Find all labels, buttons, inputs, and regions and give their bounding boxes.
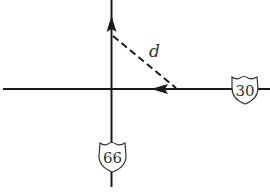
distance-line (113, 36, 176, 88)
highway-diagram: d 30 66 (0, 0, 270, 196)
highway-30-shield: 30 (232, 77, 258, 105)
highway-66-number: 66 (103, 149, 122, 167)
highway-30-number: 30 (235, 82, 254, 100)
distance-label: d (149, 41, 160, 61)
highway-66-shield: 66 (99, 143, 126, 173)
